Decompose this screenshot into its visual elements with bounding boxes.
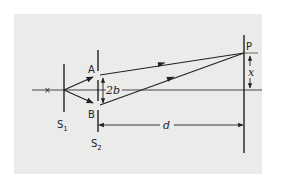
label-s1: S1 [57, 119, 68, 133]
label-s2: S2 [91, 138, 102, 152]
label-2b: 2b [105, 84, 120, 97]
label-a: A [88, 64, 95, 75]
interference-diagram: × S1 A B S2 2b P x d [0, 0, 288, 178]
ray-s1-to-b [64, 90, 93, 103]
ray-s1-to-a [64, 77, 93, 90]
label-d: d [163, 119, 170, 132]
label-x: x [248, 66, 255, 79]
label-p: P [246, 41, 252, 52]
label-b: B [88, 109, 95, 120]
ray-b-to-p [100, 53, 244, 105]
ray-a-arrowhead [158, 61, 167, 67]
ray-a-to-p [100, 53, 244, 75]
source-mark: × [44, 86, 51, 95]
